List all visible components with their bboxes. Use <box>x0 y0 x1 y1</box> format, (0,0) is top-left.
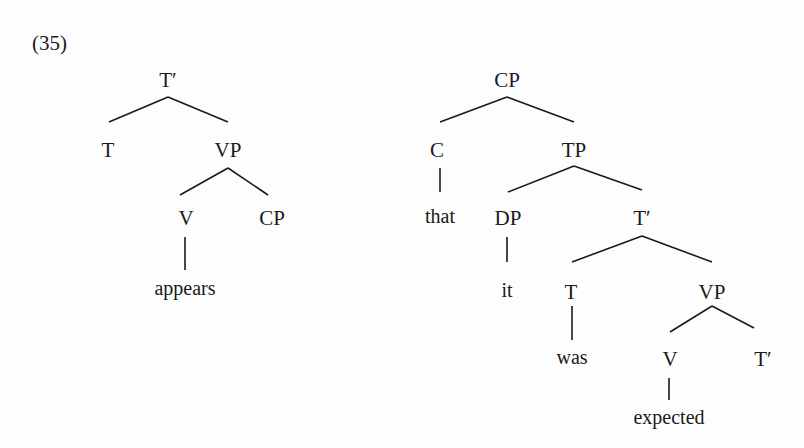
terminal-was: was <box>556 346 587 368</box>
tree-branch <box>712 306 754 328</box>
terminal-that: that <box>425 205 455 227</box>
tree-branch <box>228 168 268 195</box>
tree-branch <box>670 306 712 332</box>
node-cp: CP <box>494 69 520 91</box>
tree-branch <box>109 97 168 122</box>
tree-branch <box>572 236 642 262</box>
terminal-expected: expected <box>633 406 704 428</box>
node-vp: VP <box>699 281 726 303</box>
node-tp: TP <box>562 139 587 161</box>
tree-branch <box>508 166 574 192</box>
node-cp: CP <box>259 207 285 229</box>
tree-branch <box>168 97 228 122</box>
tree-branch <box>180 168 228 195</box>
node-t-bar-2: T′ <box>754 348 771 370</box>
terminal-appears: appears <box>154 277 215 299</box>
node-t: T <box>565 281 578 303</box>
tree-branch <box>440 97 507 122</box>
node-vp: VP <box>215 139 242 161</box>
tree-branch <box>507 97 574 122</box>
node-t-bar: T′ <box>633 207 650 229</box>
node-dp: DP <box>495 207 522 229</box>
node-v: V <box>662 348 677 370</box>
node-v: V <box>178 207 193 229</box>
tree-edges <box>0 0 804 448</box>
node-t: T <box>102 139 115 161</box>
node-t-bar: T′ <box>159 69 176 91</box>
terminal-it: it <box>501 279 512 301</box>
node-c: C <box>430 139 444 161</box>
tree-branch <box>642 236 712 262</box>
tree-branch <box>574 166 642 190</box>
